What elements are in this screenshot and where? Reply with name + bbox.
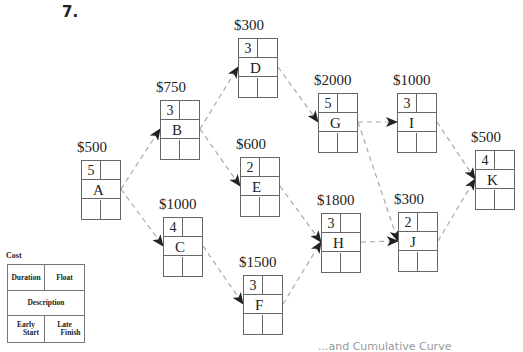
node-duration: 3 [161,101,180,119]
node-description: E [241,177,279,195]
node-description: J [399,232,437,250]
node-grid: 4K [475,150,515,210]
legend-cost-label: Cost [6,251,22,260]
node-early-start [322,253,341,272]
node-float [417,94,436,112]
node-float [418,213,437,231]
edge-b-d [200,67,238,129]
activity-node-f: $15003F [243,275,283,335]
legend-float: Float [45,265,84,290]
node-late-finish [417,133,436,152]
node-grid: 4C [163,217,203,277]
node-grid: 2E [240,157,280,217]
edge-e-h [280,186,321,242]
node-cost: $500 [471,129,501,146]
edge-g-j [358,122,398,241]
node-early-start [82,200,101,219]
node-grid: 5A [81,160,121,220]
node-grid: 3F [243,275,283,335]
edge-i-k [437,122,475,179]
node-float [495,151,514,169]
edge-j-k [438,179,475,241]
node-early-start [164,257,183,276]
node-early-start [244,315,263,334]
node-cost: $300 [394,191,424,208]
node-description: F [244,295,282,313]
edge-b-e [200,129,240,186]
node-late-finish [495,190,514,209]
node-early-start [399,252,418,271]
edge-a-b [121,129,160,189]
node-early-start [239,78,258,97]
activity-node-g: $20005G [318,93,358,153]
node-duration: 4 [164,218,183,236]
node-late-finish [258,78,277,97]
activity-node-a: $5005A [81,160,121,220]
node-early-start [476,190,495,209]
edge-c-f [203,246,243,304]
node-description: D [239,58,277,76]
node-duration: 2 [241,158,260,176]
activity-node-k: $5004K [475,150,515,210]
legend-late-finish-line2: Finish [48,329,80,337]
node-float [341,214,360,232]
node-float [338,94,357,112]
node-cost: $600 [236,136,266,153]
node-late-finish [341,253,360,272]
node-float [180,101,199,119]
node-early-start [161,140,180,159]
legend-description: Description [8,291,84,315]
node-late-finish [263,315,282,334]
node-early-start [319,133,338,152]
node-cost: $1000 [159,196,197,213]
activity-node-e: $6002E [240,157,280,217]
node-late-finish [101,200,120,219]
legend-duration: Duration [8,265,45,290]
node-duration: 5 [319,94,338,112]
node-duration: 5 [82,161,101,179]
legend-late-finish: Late Finish [45,316,84,342]
activity-node-j: $3002J [398,212,438,272]
edge-h-j [361,241,398,242]
node-cost: $2000 [314,72,352,89]
node-late-finish [183,257,202,276]
activity-node-i: $10003I [397,93,437,153]
activity-node-d: $3003D [238,38,278,98]
node-description: K [476,170,514,188]
node-late-finish [260,197,279,216]
edge-d-g [278,67,318,122]
caption: ...and Cumulative Curve [318,340,451,352]
node-late-finish [180,140,199,159]
node-float [263,276,282,294]
node-grid: 3I [397,93,437,153]
node-cost: $1000 [393,72,431,89]
node-grid: 5G [318,93,358,153]
node-float [101,161,120,179]
edge-a-c [121,189,163,246]
node-float [260,158,279,176]
node-duration: 3 [244,276,263,294]
node-description: C [164,237,202,255]
node-late-finish [418,252,437,271]
node-duration: 3 [239,39,258,57]
node-late-finish [338,133,357,152]
node-description: B [161,120,199,138]
edge-f-h [283,242,321,304]
node-float [183,218,202,236]
legend-early-start: Early Start [8,316,45,342]
node-duration: 2 [399,213,418,231]
node-early-start [398,133,417,152]
node-cost: $500 [77,139,107,156]
node-cost: $300 [234,17,264,34]
node-duration: 3 [398,94,417,112]
node-cost: $1500 [239,254,277,271]
node-early-start [241,197,260,216]
node-grid: 3D [238,38,278,98]
activity-node-c: $10004C [163,217,203,277]
node-cost: $1800 [317,192,355,209]
node-description: I [398,113,436,131]
node-duration: 4 [476,151,495,169]
node-grid: 2J [398,212,438,272]
node-grid: 3H [321,213,361,273]
legend-early-start-line2: Start [13,329,39,337]
